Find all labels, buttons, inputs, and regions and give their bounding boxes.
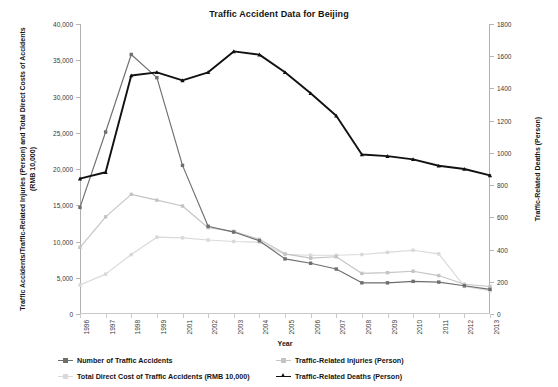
x-axis-tick bbox=[388, 314, 389, 318]
data-point-marker bbox=[78, 283, 81, 286]
x-axis-tick bbox=[157, 314, 158, 318]
y-axis-left-tick-label: 40,000 bbox=[53, 21, 73, 28]
x-axis-tick bbox=[490, 314, 491, 318]
y-axis-left-tick-label: 0 bbox=[69, 311, 73, 318]
data-point-marker bbox=[283, 257, 286, 260]
data-point-marker bbox=[130, 53, 133, 56]
y-axis-right-tick bbox=[490, 217, 494, 218]
y-axis-right-tick-label: 800 bbox=[497, 182, 508, 189]
y-axis-right-tick-label: 1200 bbox=[497, 117, 511, 124]
y-axis-left-tick-label: 35,000 bbox=[53, 57, 73, 64]
data-point-marker bbox=[437, 252, 440, 255]
y-axis-right-tick bbox=[490, 88, 494, 89]
plot-area: 05,00010,00015,00020,00025,00030,00035,0… bbox=[80, 24, 490, 314]
x-axis-tick-label: 2007 bbox=[339, 320, 346, 334]
series-plot bbox=[80, 24, 490, 314]
data-point-marker bbox=[155, 198, 158, 201]
series-line bbox=[80, 194, 490, 286]
x-axis-tick bbox=[311, 314, 312, 318]
data-point-marker bbox=[258, 239, 261, 242]
data-point-marker bbox=[104, 272, 107, 275]
x-axis-tick bbox=[362, 314, 363, 318]
legend-marker-icon bbox=[276, 373, 291, 380]
legend-label: Number of Traffic Accidents bbox=[77, 356, 173, 365]
y-axis-right-tick bbox=[490, 153, 494, 154]
y-axis-left-tick-label: 25,000 bbox=[53, 129, 73, 136]
x-axis-tick-label: 2010 bbox=[416, 320, 423, 334]
data-point-marker bbox=[411, 270, 414, 273]
legend-label: Total Direct Cost of Traffic Accidents (… bbox=[77, 372, 250, 381]
x-axis-tick-label: 2012 bbox=[467, 320, 474, 334]
x-axis-tick bbox=[336, 314, 337, 318]
data-point-marker bbox=[488, 288, 491, 291]
y-axis-right-tick-label: 1000 bbox=[497, 149, 511, 156]
y-axis-right-tick bbox=[490, 282, 494, 283]
data-point-marker bbox=[411, 280, 414, 283]
x-axis-tick bbox=[106, 314, 107, 318]
x-axis-tick-label: 2005 bbox=[288, 320, 295, 334]
data-point-marker bbox=[309, 254, 312, 257]
data-point-marker bbox=[463, 284, 466, 287]
legend-marker-icon bbox=[276, 357, 291, 364]
y-axis-left-title: Traffic Accidents/Traffic-Related Injuri… bbox=[6, 24, 50, 314]
y-axis-left-tick-label: 5,000 bbox=[57, 274, 73, 281]
data-point-marker bbox=[335, 255, 338, 258]
data-point-marker bbox=[360, 253, 363, 256]
x-axis-tick-label: 2004 bbox=[262, 320, 269, 334]
data-point-marker bbox=[78, 246, 81, 249]
chart-root: Traffic Accident Data for Beijing Traffi… bbox=[0, 0, 558, 387]
data-point-marker bbox=[437, 274, 440, 277]
y-axis-right-tick-label: 400 bbox=[497, 246, 508, 253]
legend-marker-icon bbox=[58, 357, 73, 364]
y-axis-left-tick-label: 10,000 bbox=[53, 238, 73, 245]
data-point-marker bbox=[206, 238, 209, 241]
data-point-marker bbox=[155, 76, 158, 79]
data-point-marker bbox=[283, 252, 286, 255]
legend-item[interactable]: Traffic-Related Deaths (Person) bbox=[276, 372, 528, 381]
data-point-marker bbox=[309, 256, 312, 259]
y-axis-right-tick-label: 0 bbox=[497, 311, 501, 318]
legend-item[interactable]: Traffic-Related Injuries (Person) bbox=[276, 356, 528, 365]
y-axis-right-tick-label: 1400 bbox=[497, 85, 511, 92]
series-3 bbox=[78, 235, 491, 292]
data-point-marker bbox=[309, 262, 312, 265]
series-2 bbox=[78, 193, 491, 288]
x-axis-tick bbox=[285, 314, 286, 318]
data-point-marker bbox=[130, 253, 133, 256]
y-axis-left-tick-label: 15,000 bbox=[53, 202, 73, 209]
data-point-marker bbox=[206, 225, 209, 228]
legend-marker-icon bbox=[58, 373, 73, 380]
x-axis-tick-label: 2006 bbox=[314, 320, 321, 334]
y-axis-right-tick bbox=[490, 24, 494, 25]
data-point-marker bbox=[360, 272, 363, 275]
data-point-marker bbox=[411, 249, 414, 252]
chart-title: Traffic Accident Data for Beijing bbox=[0, 9, 558, 19]
data-point-marker bbox=[232, 240, 235, 243]
y-axis-left-tick-label: 20,000 bbox=[53, 166, 73, 173]
legend-item[interactable]: Total Direct Cost of Traffic Accidents (… bbox=[58, 372, 276, 381]
x-axis-tick-label: 2011 bbox=[442, 320, 449, 334]
chart-legend: Number of Traffic AccidentsTraffic-Relat… bbox=[58, 352, 528, 384]
x-axis-tick bbox=[131, 314, 132, 318]
x-axis-tick-label: 1998 bbox=[134, 320, 141, 334]
y-axis-right-tick bbox=[490, 56, 494, 57]
data-point-marker bbox=[104, 215, 107, 218]
x-axis-tick-label: 1997 bbox=[109, 320, 116, 334]
data-point-marker bbox=[104, 130, 107, 133]
data-point-marker bbox=[155, 235, 158, 238]
x-axis-tick bbox=[464, 314, 465, 318]
legend-item[interactable]: Number of Traffic Accidents bbox=[58, 356, 276, 365]
data-point-marker bbox=[360, 281, 363, 284]
x-axis-tick-label: 2001 bbox=[186, 320, 193, 334]
data-point-marker bbox=[335, 267, 338, 270]
y-axis-right-tick bbox=[490, 250, 494, 251]
y-axis-right-tick-label: 1600 bbox=[497, 53, 511, 60]
x-axis-tick-label: 1996 bbox=[83, 320, 90, 334]
data-point-marker bbox=[488, 285, 491, 288]
data-point-marker bbox=[181, 164, 184, 167]
legend-label: Traffic-Related Deaths (Person) bbox=[295, 372, 402, 381]
y-axis-right-tick bbox=[490, 185, 494, 186]
data-point-marker bbox=[78, 206, 81, 209]
data-point-marker bbox=[386, 281, 389, 284]
data-point-marker bbox=[386, 251, 389, 254]
